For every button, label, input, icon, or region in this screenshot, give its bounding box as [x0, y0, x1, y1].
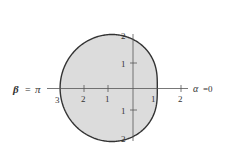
beta-label: β — [12, 83, 19, 95]
pi-label: π — [35, 83, 41, 95]
y-tick-label-neg1: 1 — [121, 106, 126, 116]
alpha-eq: =0 — [203, 84, 213, 94]
limacon-curve — [60, 35, 157, 142]
polar-graph: β = π α =0 3 2 1 1 2 2 1 1 2 — [0, 0, 229, 159]
x-tick-label-neg1: 1 — [105, 94, 110, 104]
x-tick-label-neg2: 2 — [81, 94, 86, 104]
x-tick-label-pos1: 1 — [151, 94, 156, 104]
x-tick-label-pos2: 2 — [178, 94, 183, 104]
alpha-label: α — [193, 83, 199, 94]
y-tick-label-neg2: 2 — [121, 134, 126, 144]
beta-eq: = — [25, 84, 31, 95]
y-tick-label-pos2: 2 — [121, 31, 126, 41]
y-tick-label-pos1: 1 — [121, 59, 126, 69]
x-tick-label-neg3: 3 — [55, 95, 60, 105]
